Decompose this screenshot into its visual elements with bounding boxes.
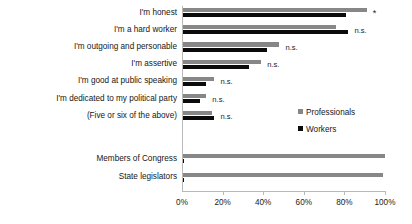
x-axis-tick-label: 60% <box>284 198 324 207</box>
bar-workers <box>182 30 348 34</box>
bar-professionals <box>182 94 206 98</box>
x-axis-tick <box>344 191 345 195</box>
bar-workers <box>182 99 200 103</box>
category-label: I'm outgoing and personable <box>0 42 177 51</box>
legend: Professionals Workers <box>298 108 408 138</box>
legend-item-professionals: Professionals <box>298 108 355 117</box>
bar-workers <box>182 116 214 120</box>
bar-professionals <box>182 60 261 64</box>
legend-swatch-professionals-icon <box>298 109 303 114</box>
category-label: I'm good at public speaking <box>0 76 177 85</box>
category-label: I'm assertive <box>0 59 177 68</box>
bar-professionals <box>182 154 385 158</box>
bar-workers <box>182 65 249 69</box>
legend-label-professionals: Professionals <box>306 108 355 117</box>
bar-professionals <box>182 8 367 12</box>
category-label: State legislators <box>0 172 177 181</box>
x-axis-tick-label: 20% <box>203 198 243 207</box>
bar-workers <box>182 13 346 17</box>
x-axis-tick <box>304 191 305 195</box>
x-axis-tick-label: 40% <box>243 198 283 207</box>
x-axis-tick-label: 100% <box>365 198 405 207</box>
category-label: I'm dedicated to my political party <box>0 94 177 103</box>
horizontal-bar-chart: I'm honestI'm a hard workerI'm outgoing … <box>0 0 412 224</box>
x-axis-line <box>182 191 386 192</box>
x-axis-tick <box>223 191 224 195</box>
y-axis-line <box>182 6 183 192</box>
bar-workers <box>182 82 206 86</box>
category-label: (Five or six of the above) <box>0 111 177 120</box>
category-label: I'm a hard worker <box>0 25 177 34</box>
x-axis-tick <box>385 191 386 195</box>
x-axis-tick <box>263 191 264 195</box>
bar-professionals <box>182 42 279 46</box>
x-axis-tick-label: 80% <box>324 198 364 207</box>
category-label: Members of Congress <box>0 154 177 163</box>
bar-professionals <box>182 173 383 177</box>
significance-annotation: n.s. <box>267 60 279 69</box>
bar-workers <box>182 48 267 52</box>
legend-item-workers: Workers <box>298 125 336 134</box>
bar-professionals <box>182 25 336 29</box>
bar-professionals <box>182 77 214 81</box>
significance-annotation: n.s. <box>212 95 224 104</box>
significance-annotation: n.s. <box>285 43 297 52</box>
category-label: I'm honest <box>0 8 177 17</box>
significance-annotation: n.s. <box>220 112 232 121</box>
x-axis-tick-label: 0% <box>162 198 202 207</box>
significance-annotation: * <box>373 10 377 17</box>
significance-annotation: n.s. <box>220 77 232 86</box>
legend-label-workers: Workers <box>306 125 336 134</box>
bar-professionals <box>182 111 212 115</box>
legend-swatch-workers-icon <box>298 126 303 131</box>
significance-annotation: n.s. <box>354 26 366 35</box>
